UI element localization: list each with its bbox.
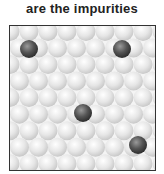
lattice-frame [9,25,156,171]
host-atom [39,55,58,74]
host-atom [39,121,58,140]
host-atom [10,55,20,74]
host-atom [29,72,48,91]
host-atom [20,26,39,41]
host-atom [96,55,115,74]
crystal-lattice [10,26,155,170]
host-atom [153,88,156,107]
host-atom [10,105,29,124]
impurity-atom [113,40,131,58]
host-atom [10,121,20,140]
host-atom [10,88,20,107]
host-atom [58,121,77,140]
impurity-atom [74,104,92,122]
host-atom [115,121,134,140]
host-atom [48,39,67,58]
host-atom [96,26,115,41]
host-atom [67,72,86,91]
host-atom [134,55,153,74]
host-atom [134,26,153,41]
host-atom [86,72,105,91]
host-atom [115,55,134,74]
host-atom [134,154,153,170]
host-atom [96,88,115,107]
host-atom [143,105,155,124]
host-atom [58,55,77,74]
host-atom [10,72,29,91]
host-atom [77,26,96,41]
host-atom [58,88,77,107]
impurity-atom [129,136,147,154]
host-atom [105,72,124,91]
impurity-atom [20,40,38,58]
host-atom [58,154,77,170]
host-atom [20,88,39,107]
host-atom [39,26,58,41]
host-atom [20,121,39,140]
host-atom [39,154,58,170]
host-atom [10,138,29,157]
host-atom [48,72,67,91]
host-atom [105,105,124,124]
host-atom [20,154,39,170]
diagram-caption: are the impurities [0,1,164,16]
host-atom [10,154,20,170]
host-atom [134,88,153,107]
host-atom [58,26,77,41]
host-atom [39,88,58,107]
host-atom [115,26,134,41]
host-atom [67,138,86,157]
host-atom [77,121,96,140]
host-atom [153,121,156,140]
host-atom [77,154,96,170]
host-atom [67,39,86,58]
host-atom [48,105,67,124]
host-atom [96,121,115,140]
host-atom [115,154,134,170]
host-atom [105,138,124,157]
host-atom [77,88,96,107]
host-atom [48,138,67,157]
host-atom [29,138,48,157]
host-atom [115,88,134,107]
host-atom [86,138,105,157]
host-atom [96,154,115,170]
host-atom [143,72,155,91]
host-atom [124,72,143,91]
host-atom [124,105,143,124]
host-atom [86,39,105,58]
host-atom [143,39,155,58]
host-atom [153,55,156,74]
host-atom [29,105,48,124]
host-atom [77,55,96,74]
